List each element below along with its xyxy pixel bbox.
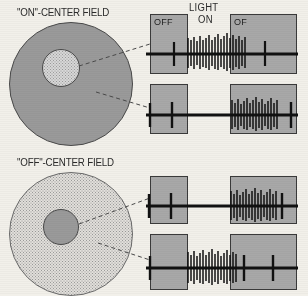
off-center-field-title: "OFF"-CENTER FIELD bbox=[17, 156, 114, 168]
trace-row-on-center-center: OFF OF bbox=[150, 14, 297, 74]
spike-trace-off-center-surround bbox=[146, 234, 298, 290]
on-center-field-title: "ON"-CENTER FIELD bbox=[17, 6, 109, 18]
spike-trace-on-center-center bbox=[146, 14, 298, 74]
on-center-field-center bbox=[42, 49, 80, 87]
light-header-label: LIGHT bbox=[189, 2, 218, 13]
trace-row-on-center-surround bbox=[150, 84, 297, 134]
spike-trace-off-center-center bbox=[146, 176, 298, 224]
spike-trace-on-center-surround bbox=[146, 84, 298, 134]
trace-row-off-center-surround bbox=[150, 234, 297, 290]
off-center-field-center bbox=[43, 209, 79, 245]
trace-row-off-center-center bbox=[150, 176, 297, 224]
